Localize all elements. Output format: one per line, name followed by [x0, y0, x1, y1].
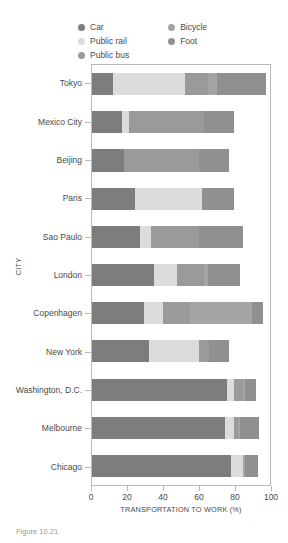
bar-segment[interactable]	[154, 264, 177, 286]
x-axis-tick-label: 20	[122, 492, 131, 502]
stacked-bar[interactable]	[92, 111, 234, 133]
bar-segment[interactable]	[204, 111, 234, 133]
bar-segment[interactable]	[124, 149, 199, 171]
stacked-bar[interactable]	[92, 264, 240, 286]
x-axis-ticks	[91, 486, 271, 491]
y-axis-tick	[84, 409, 91, 447]
plot-area	[91, 64, 271, 486]
bar-segment[interactable]	[245, 455, 257, 477]
bar-segment[interactable]	[202, 188, 234, 210]
bar-segment[interactable]	[217, 73, 267, 95]
legend-item[interactable]: Public rail	[78, 34, 160, 48]
legend-item-label: Bicycle	[180, 23, 207, 32]
bar-segment[interactable]	[163, 302, 190, 324]
y-axis-tick	[84, 179, 91, 217]
y-axis-tick	[84, 217, 91, 255]
bar-segment[interactable]	[92, 379, 227, 401]
bar-segment[interactable]	[199, 226, 243, 248]
legend-dot-icon	[78, 38, 85, 45]
bar-segment[interactable]	[92, 302, 144, 324]
legend-item[interactable]: Bicycle	[168, 20, 238, 34]
bar-segment[interactable]	[92, 188, 135, 210]
bar-segment[interactable]	[129, 111, 204, 133]
stacked-bar[interactable]	[92, 149, 229, 171]
y-axis-tick	[84, 448, 91, 486]
bar-segment[interactable]	[92, 340, 149, 362]
y-axis-label-cell: Tokyo	[0, 64, 88, 102]
bar-segment[interactable]	[199, 340, 210, 362]
bar-segment[interactable]	[135, 188, 203, 210]
stacked-bar[interactable]	[92, 340, 229, 362]
stacked-bar[interactable]	[92, 455, 258, 477]
y-axis-label-cell: Copenhagen	[0, 294, 88, 332]
stacked-bar[interactable]	[92, 188, 234, 210]
x-axis-tick-label: 100	[264, 492, 278, 502]
y-axis-label: Melbourne	[42, 423, 82, 433]
stacked-bar[interactable]	[92, 302, 263, 324]
bar-segment[interactable]	[234, 379, 243, 401]
bar-segment[interactable]	[227, 379, 234, 401]
bar-segment[interactable]	[190, 302, 252, 324]
legend-dot-icon	[168, 38, 175, 45]
y-axis-ticks	[84, 64, 91, 486]
bar-segment[interactable]	[92, 111, 122, 133]
y-axis-label-cell: Sao Paulo	[0, 217, 88, 255]
bar-segment[interactable]	[151, 226, 199, 248]
bar-segment[interactable]	[122, 111, 129, 133]
bar-segment[interactable]	[231, 455, 243, 477]
legend-dot-icon	[168, 24, 175, 31]
bar-segment[interactable]	[113, 73, 184, 95]
bar-segment[interactable]	[92, 149, 124, 171]
stacked-bar[interactable]	[92, 379, 256, 401]
stacked-bar[interactable]	[92, 417, 259, 439]
bar-segment[interactable]	[92, 264, 154, 286]
y-axis-label: Copenhagen	[33, 308, 82, 318]
bar-segment[interactable]	[177, 264, 204, 286]
stacked-bar[interactable]	[92, 226, 243, 248]
chart-figure: CarPublic railPublic busBicycleFoot CITY…	[0, 0, 288, 543]
table-row	[92, 65, 270, 103]
bar-segment[interactable]	[240, 417, 260, 439]
bar-segment[interactable]	[92, 226, 140, 248]
table-row	[92, 371, 270, 409]
y-axis-label: London	[54, 270, 82, 280]
bar-segment[interactable]	[208, 264, 240, 286]
table-row	[92, 409, 270, 447]
bar-segment[interactable]	[199, 149, 229, 171]
y-axis-tick	[84, 102, 91, 140]
bar-segment[interactable]	[92, 73, 113, 95]
legend-item[interactable]: Car	[78, 20, 160, 34]
bar-segment[interactable]	[92, 417, 225, 439]
bar-segment[interactable]	[225, 417, 234, 439]
figure-caption: Figure 10.21	[16, 527, 58, 536]
y-axis-label-cell: Paris	[0, 179, 88, 217]
x-axis-tick-labels: 020406080100	[91, 492, 271, 504]
y-axis-labels: TokyoMexico CityBeijingParisSao PauloLon…	[0, 64, 88, 486]
bar-segment[interactable]	[208, 73, 217, 95]
y-axis-label: Paris	[63, 193, 82, 203]
legend-item[interactable]: Public bus	[78, 48, 160, 62]
bar-segment[interactable]	[245, 379, 256, 401]
bar-segment[interactable]	[209, 340, 229, 362]
x-axis-tick	[199, 486, 200, 491]
bar-segment[interactable]	[92, 455, 231, 477]
y-axis-label: New York	[46, 347, 82, 357]
bar-segment[interactable]	[252, 302, 263, 324]
y-axis-tick	[84, 141, 91, 179]
bar-segment[interactable]	[185, 73, 208, 95]
table-row	[92, 103, 270, 141]
y-axis-tick	[84, 294, 91, 332]
y-axis-label-cell: Washington, D.C.	[0, 371, 88, 409]
x-axis-tick	[127, 486, 128, 491]
bar-segment[interactable]	[149, 340, 199, 362]
y-axis-tick	[84, 371, 91, 409]
x-axis-tick-label: 80	[230, 492, 239, 502]
legend-item[interactable]: Foot	[168, 34, 238, 48]
y-axis-label-cell: Mexico City	[0, 102, 88, 140]
legend-item-label: Foot	[180, 37, 197, 46]
bar-segment[interactable]	[140, 226, 151, 248]
legend-dot-icon	[78, 52, 85, 59]
stacked-bar[interactable]	[92, 73, 266, 95]
bar-segment[interactable]	[144, 302, 164, 324]
y-axis-tick	[84, 256, 91, 294]
